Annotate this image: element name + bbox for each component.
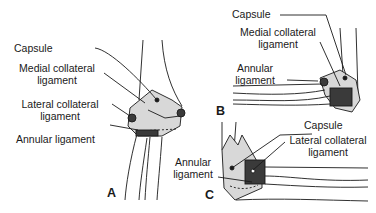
label-b-medial-line2: ligament — [232, 38, 324, 50]
label-a-annular: Annular ligament — [16, 133, 95, 145]
label-b-medial-line1: Medial collateral — [232, 26, 324, 38]
panel-letter-a: A — [107, 186, 116, 200]
label-a-lateral-line2: ligament — [14, 110, 106, 122]
label-c-lateral-collateral: Lateral collateral ligament — [280, 134, 376, 158]
label-b-annular-line1: Annular — [230, 62, 280, 74]
label-b-medial-collateral: Medial collateral ligament — [232, 26, 324, 50]
label-c-annular-line2: ligament — [168, 168, 218, 180]
label-a-medial-line1: Medial collateral — [14, 62, 100, 74]
label-c-annular: Annular ligament — [168, 156, 218, 180]
label-c-lateral-line2: ligament — [280, 146, 376, 158]
label-c-annular-line1: Annular — [168, 156, 218, 168]
label-b-capsule: Capsule — [232, 8, 271, 20]
label-a-medial-line2: ligament — [14, 74, 100, 86]
label-c-capsule: Capsule — [304, 119, 343, 131]
label-b-annular: Annular ligament — [230, 62, 280, 86]
panel-letter-c: C — [205, 188, 214, 202]
label-b-annular-line2: ligament — [230, 74, 280, 86]
label-a-capsule: Capsule — [14, 42, 53, 54]
label-c-lateral-line1: Lateral collateral — [280, 134, 376, 146]
panel-letter-b: B — [216, 104, 225, 118]
label-a-lateral-line1: Lateral collateral — [14, 98, 106, 110]
label-a-lateral-collateral: Lateral collateral ligament — [14, 98, 106, 122]
label-a-medial-collateral: Medial collateral ligament — [14, 62, 100, 86]
